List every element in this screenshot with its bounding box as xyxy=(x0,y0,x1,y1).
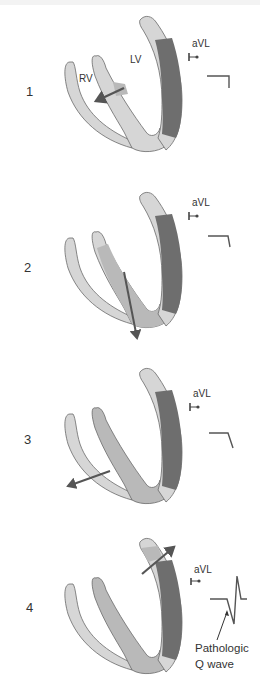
electrode-icon xyxy=(189,53,199,61)
panel-number: 1 xyxy=(26,84,33,99)
lv-label: LV xyxy=(130,54,142,65)
annotation-line-2: Q wave xyxy=(195,658,234,670)
lateral-infarct-zone xyxy=(155,214,182,314)
pointer-arrowhead-icon xyxy=(225,610,229,616)
ecg-trace xyxy=(209,433,233,448)
heart-vector-diagram: 1 RV LV aVL 2 aVL xyxy=(0,0,260,686)
septum xyxy=(92,578,166,674)
panel-4: 4 aVL Pathologic Q wave xyxy=(26,538,249,673)
panel-number: 3 xyxy=(24,432,31,447)
electrode-icon xyxy=(190,403,200,411)
electrode-icon xyxy=(189,212,199,220)
ecg-pathologic-q-trace xyxy=(210,576,247,624)
lead-label: aVL xyxy=(194,564,212,575)
rv-label: RV xyxy=(79,73,93,84)
ecg-trace xyxy=(208,236,230,247)
ecg-trace xyxy=(207,76,229,88)
annotation-line-1: Pathologic xyxy=(195,642,249,654)
septum xyxy=(92,408,166,504)
panel-number: 2 xyxy=(24,260,31,275)
lead-label: aVL xyxy=(192,197,210,208)
lateral-infarct-zone xyxy=(155,38,182,138)
lateral-infarct-zone xyxy=(155,560,182,660)
septum xyxy=(92,56,166,152)
panel-number: 4 xyxy=(26,600,33,615)
panel-3: 3 aVL xyxy=(24,368,233,503)
panel-1: 1 RV LV aVL xyxy=(26,16,229,151)
panel-2: 2 aVL xyxy=(24,192,230,338)
lateral-infarct-zone xyxy=(155,390,182,490)
lead-label: aVL xyxy=(193,388,211,399)
electrode-icon xyxy=(191,578,201,585)
annotation-pointer xyxy=(217,612,227,640)
lead-label: aVL xyxy=(192,38,210,49)
